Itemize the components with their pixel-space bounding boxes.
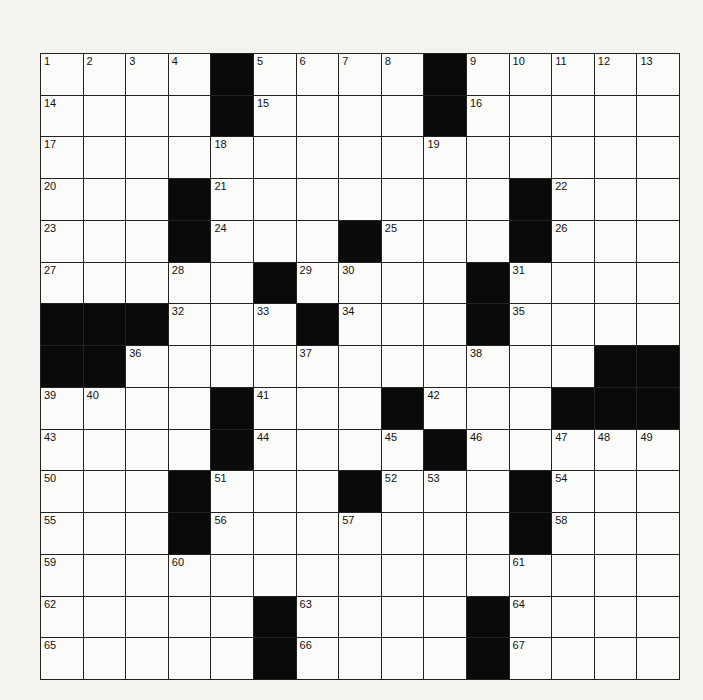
grid-cell[interactable] [552, 263, 594, 304]
grid-cell[interactable] [382, 137, 424, 178]
grid-cell[interactable] [595, 179, 637, 220]
grid-cell[interactable]: 48 [595, 430, 637, 471]
grid-cell[interactable] [637, 179, 679, 220]
grid-cell[interactable]: 11 [552, 54, 594, 95]
grid-cell[interactable]: 62 [41, 597, 83, 638]
grid-cell[interactable]: 10 [510, 54, 552, 95]
grid-cell[interactable] [595, 304, 637, 345]
grid-cell[interactable] [297, 179, 339, 220]
grid-cell[interactable] [382, 346, 424, 387]
grid-cell[interactable] [339, 430, 381, 471]
grid-cell[interactable]: 30 [339, 263, 381, 304]
grid-cell[interactable] [424, 346, 466, 387]
grid-cell[interactable]: 66 [297, 638, 339, 679]
grid-cell[interactable] [211, 555, 253, 596]
grid-cell[interactable]: 67 [510, 638, 552, 679]
grid-cell[interactable]: 29 [297, 263, 339, 304]
grid-cell[interactable]: 55 [41, 513, 83, 554]
grid-cell[interactable]: 40 [84, 388, 126, 429]
grid-cell[interactable] [467, 388, 509, 429]
grid-cell[interactable]: 33 [254, 304, 296, 345]
grid-cell[interactable]: 7 [339, 54, 381, 95]
grid-cell[interactable] [595, 96, 637, 137]
grid-cell[interactable] [297, 471, 339, 512]
grid-cell[interactable]: 21 [211, 179, 253, 220]
grid-cell[interactable] [169, 430, 211, 471]
grid-cell[interactable] [84, 430, 126, 471]
grid-cell[interactable] [382, 555, 424, 596]
grid-cell[interactable]: 54 [552, 471, 594, 512]
grid-cell[interactable] [637, 221, 679, 262]
grid-cell[interactable]: 15 [254, 96, 296, 137]
grid-cell[interactable] [382, 96, 424, 137]
grid-cell[interactable]: 51 [211, 471, 253, 512]
grid-cell[interactable] [297, 137, 339, 178]
grid-cell[interactable]: 52 [382, 471, 424, 512]
grid-cell[interactable] [169, 96, 211, 137]
grid-cell[interactable]: 36 [126, 346, 168, 387]
grid-cell[interactable]: 4 [169, 54, 211, 95]
grid-cell[interactable]: 5 [254, 54, 296, 95]
grid-cell[interactable] [84, 638, 126, 679]
grid-cell[interactable] [637, 555, 679, 596]
grid-cell[interactable] [552, 638, 594, 679]
grid-cell[interactable] [339, 597, 381, 638]
grid-cell[interactable] [254, 471, 296, 512]
grid-cell[interactable] [637, 513, 679, 554]
grid-cell[interactable]: 25 [382, 221, 424, 262]
grid-cell[interactable] [424, 597, 466, 638]
grid-cell[interactable] [467, 555, 509, 596]
grid-cell[interactable]: 60 [169, 555, 211, 596]
grid-cell[interactable]: 31 [510, 263, 552, 304]
grid-cell[interactable] [467, 513, 509, 554]
grid-cell[interactable] [424, 638, 466, 679]
grid-cell[interactable] [126, 388, 168, 429]
grid-cell[interactable] [552, 555, 594, 596]
grid-cell[interactable] [126, 96, 168, 137]
grid-cell[interactable] [382, 263, 424, 304]
grid-cell[interactable] [637, 638, 679, 679]
grid-cell[interactable] [339, 638, 381, 679]
grid-cell[interactable] [84, 179, 126, 220]
grid-cell[interactable]: 50 [41, 471, 83, 512]
grid-cell[interactable] [211, 263, 253, 304]
grid-cell[interactable] [339, 179, 381, 220]
grid-cell[interactable] [169, 346, 211, 387]
grid-cell[interactable] [84, 513, 126, 554]
grid-cell[interactable]: 3 [126, 54, 168, 95]
grid-cell[interactable] [382, 304, 424, 345]
grid-cell[interactable] [552, 346, 594, 387]
grid-cell[interactable]: 27 [41, 263, 83, 304]
grid-cell[interactable] [339, 96, 381, 137]
grid-cell[interactable] [510, 346, 552, 387]
grid-cell[interactable] [382, 597, 424, 638]
grid-cell[interactable] [552, 304, 594, 345]
grid-cell[interactable]: 39 [41, 388, 83, 429]
grid-cell[interactable] [297, 388, 339, 429]
grid-cell[interactable]: 38 [467, 346, 509, 387]
grid-cell[interactable] [424, 221, 466, 262]
grid-cell[interactable] [595, 555, 637, 596]
grid-cell[interactable] [552, 597, 594, 638]
grid-cell[interactable]: 8 [382, 54, 424, 95]
grid-cell[interactable] [424, 513, 466, 554]
grid-cell[interactable] [254, 513, 296, 554]
grid-cell[interactable] [254, 555, 296, 596]
grid-cell[interactable]: 6 [297, 54, 339, 95]
grid-cell[interactable] [211, 597, 253, 638]
grid-cell[interactable] [637, 263, 679, 304]
grid-cell[interactable] [595, 263, 637, 304]
grid-cell[interactable] [467, 179, 509, 220]
grid-cell[interactable] [424, 304, 466, 345]
grid-cell[interactable]: 9 [467, 54, 509, 95]
grid-cell[interactable] [339, 555, 381, 596]
grid-cell[interactable]: 43 [41, 430, 83, 471]
grid-cell[interactable] [254, 346, 296, 387]
grid-cell[interactable] [169, 137, 211, 178]
grid-cell[interactable]: 42 [424, 388, 466, 429]
grid-cell[interactable] [297, 96, 339, 137]
grid-cell[interactable]: 1 [41, 54, 83, 95]
grid-cell[interactable]: 19 [424, 137, 466, 178]
grid-cell[interactable] [339, 388, 381, 429]
grid-cell[interactable] [84, 471, 126, 512]
